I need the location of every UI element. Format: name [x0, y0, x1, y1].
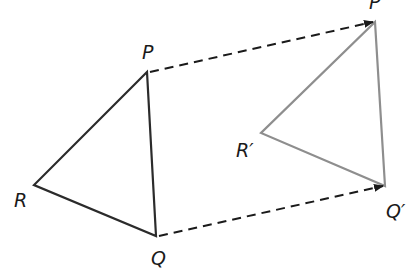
label-q-prime: Q′ [386, 200, 406, 222]
label-p: P [142, 41, 154, 63]
translation-arrow-q [159, 186, 383, 236]
label-r: R [14, 189, 27, 211]
translation-arrow-p [150, 22, 373, 72]
label-q: Q [151, 247, 166, 269]
label-p-prime: P′ [369, 0, 385, 13]
label-r-prime: R′ [236, 139, 254, 161]
translation-diagram: P Q R P′ Q′ R′ [0, 0, 419, 276]
triangle-pqr [34, 72, 156, 236]
triangle-p-prime-q-prime-r-prime [261, 22, 385, 186]
